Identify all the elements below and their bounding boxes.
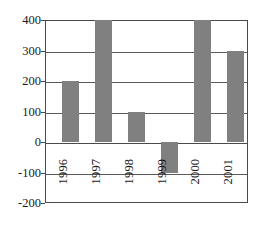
bar-chart: 400 300 200 100 0 -100 -200 1996 1997 19… bbox=[0, 0, 263, 233]
bar-1996 bbox=[62, 81, 79, 142]
y-axis-tick-mark bbox=[41, 203, 45, 204]
bars-layer bbox=[45, 20, 248, 203]
y-axis-tick-label: 200 bbox=[0, 75, 41, 88]
y-axis-tick-label: -200 bbox=[0, 197, 41, 210]
y-axis-tick-label: 0 bbox=[0, 136, 41, 149]
y-axis-tick-label: 300 bbox=[0, 44, 41, 57]
x-axis-label-1997: 1997 bbox=[90, 159, 103, 185]
bar-2000 bbox=[194, 20, 211, 142]
y-axis-tick-label: 100 bbox=[0, 105, 41, 118]
x-axis-label-2000: 2000 bbox=[189, 159, 202, 185]
x-axis-label-2001: 2001 bbox=[222, 159, 235, 185]
x-axis-label-1999: 1999 bbox=[156, 159, 169, 185]
bar-1998 bbox=[128, 112, 145, 143]
y-axis-tick-label: 400 bbox=[0, 14, 41, 27]
bar-1997 bbox=[95, 20, 112, 142]
x-axis-label-1996: 1996 bbox=[57, 159, 70, 185]
x-axis-label-1998: 1998 bbox=[123, 159, 136, 185]
y-axis-tick-label: -100 bbox=[0, 166, 41, 179]
bar-2001 bbox=[227, 51, 244, 143]
